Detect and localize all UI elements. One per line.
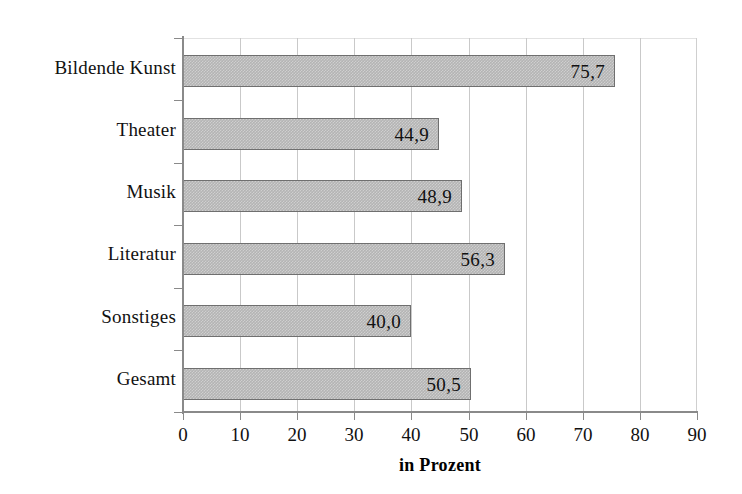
x-tick-40 [411, 412, 412, 420]
gridline-40 [411, 38, 412, 412]
x-tick-70 [583, 412, 584, 420]
x-tick-50 [469, 412, 470, 420]
x-tick-80 [640, 412, 641, 420]
category-label-4: Sonstiges [101, 306, 176, 328]
bar-value-sonstiges: 40,0 [311, 312, 401, 332]
category-label-3: Literatur [108, 243, 176, 265]
gridline-20 [297, 38, 298, 412]
x-tick-label-20: 20 [272, 424, 322, 446]
bar-value-bildende-kunst: 75,7 [515, 62, 605, 82]
gridline-10 [240, 38, 241, 412]
bar-value-literatur: 56,3 [405, 250, 495, 270]
x-tick-label-40: 40 [386, 424, 436, 446]
bar-value-musik: 48,9 [362, 187, 452, 207]
x-tick-0 [183, 412, 184, 420]
x-axis-title: in Prozent [183, 455, 697, 476]
x-tick-20 [297, 412, 298, 420]
plot-right-border [696, 38, 697, 412]
bar-value-gesamt: 50,5 [371, 375, 461, 395]
x-axis-line [182, 411, 698, 413]
category-label-5: Gesamt [117, 368, 176, 390]
gridline-60 [526, 38, 527, 412]
x-tick-label-90: 90 [672, 424, 722, 446]
y-tick-1 [174, 100, 183, 101]
x-tick-label-60: 60 [501, 424, 551, 446]
bar-chart: Bildende Kunst Theater Musik Literatur S… [0, 0, 742, 494]
gridline-80 [640, 38, 641, 412]
y-tick-5 [174, 350, 183, 351]
y-tick-6 [174, 412, 183, 413]
y-tick-3 [174, 225, 183, 226]
plot-area: 75,7 44,9 48,9 56,3 40,0 50,5 [183, 38, 697, 412]
category-label-1: Theater [117, 119, 176, 141]
gridline-30 [354, 38, 355, 412]
x-tick-30 [354, 412, 355, 420]
x-tick-label-70: 70 [558, 424, 608, 446]
x-tick-label-50: 50 [444, 424, 494, 446]
gridline-70 [583, 38, 584, 412]
y-tick-4 [174, 288, 183, 289]
x-tick-10 [240, 412, 241, 420]
x-tick-90 [697, 412, 698, 420]
gridline-50 [469, 38, 470, 412]
category-label-2: Musik [126, 181, 176, 203]
x-tick-60 [526, 412, 527, 420]
x-tick-label-80: 80 [615, 424, 665, 446]
plot-top-border [183, 38, 697, 39]
x-tick-label-30: 30 [329, 424, 379, 446]
y-tick-0 [174, 38, 183, 39]
category-label-0: Bildende Kunst [54, 57, 176, 79]
x-tick-label-0: 0 [158, 424, 208, 446]
category-axis-labels: Bildende Kunst Theater Musik Literatur S… [0, 0, 176, 494]
bar-value-theater: 44,9 [339, 125, 429, 145]
y-tick-2 [174, 163, 183, 164]
x-tick-label-10: 10 [215, 424, 265, 446]
